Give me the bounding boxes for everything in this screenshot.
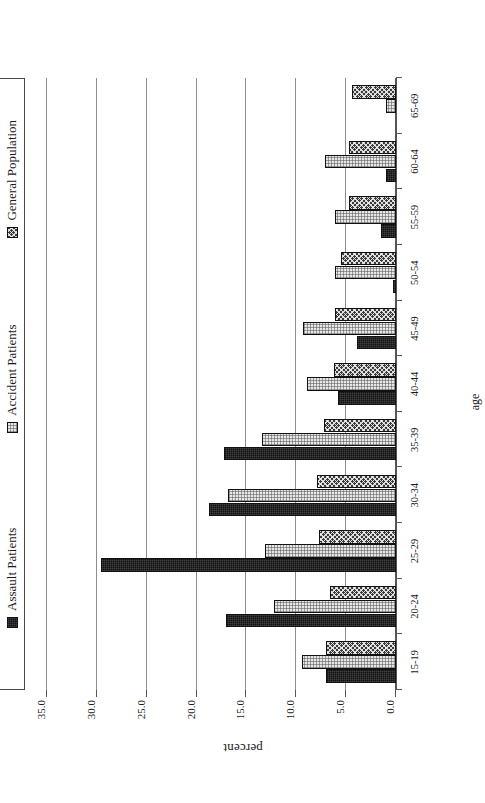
bar-general-population-45-49 (335, 307, 396, 321)
y-axis-label: 0.0 (384, 700, 396, 714)
bar-assault-patients-50-54 (393, 279, 396, 293)
x-axis-tick (396, 689, 402, 690)
y-gridline (145, 78, 146, 690)
x-axis-tick (396, 132, 402, 133)
bar-general-population-30-34 (317, 474, 396, 488)
x-axis-label-25-29: 25-29 (409, 538, 420, 563)
y-axis-tick (345, 690, 346, 697)
bar-group-55-59 (335, 196, 396, 238)
x-axis-label-50-54: 50-54 (409, 260, 420, 285)
bar-accident-patients-20-24 (274, 599, 396, 613)
y-gridline (95, 78, 96, 690)
bar-general-population-55-59 (349, 196, 396, 210)
bar-accident-patients-30-34 (228, 488, 396, 502)
x-axis-label-65-69: 65-69 (409, 93, 420, 118)
y-gridline (195, 78, 196, 690)
y-axis-label: 5.0 (334, 700, 346, 714)
x-axis-tick (396, 410, 402, 411)
x-axis-label-30-34: 30-34 (409, 483, 420, 508)
bar-group-65-69 (352, 85, 396, 127)
bar-assault-patients-60-64 (386, 168, 396, 182)
bar-accident-patients-25-29 (265, 544, 396, 558)
x-axis-label-20-24: 20-24 (409, 594, 420, 619)
legend-swatch-icon (6, 226, 17, 237)
x-axis-title: age (468, 52, 483, 752)
y-axis-title: percent (223, 740, 263, 756)
legend-item-assault-patients: Assault Patients (4, 527, 20, 627)
bar-accident-patients-40-44 (307, 377, 396, 391)
bar-group-50-54 (335, 251, 396, 293)
legend-swatch-icon (6, 617, 17, 628)
x-axis-label-60-64: 60-64 (409, 149, 420, 174)
x-axis-label-45-49: 45-49 (409, 316, 420, 341)
bar-assault-patients-45-49 (357, 335, 396, 349)
bar-general-population-50-54 (341, 251, 396, 265)
bar-general-population-20-24 (330, 585, 396, 599)
y-axis-tick (95, 690, 96, 697)
x-axis-label-15-19: 15-19 (409, 649, 420, 674)
y-axis-label: 25.0 (134, 700, 146, 719)
y-axis-label: 10.0 (284, 700, 296, 719)
y-axis-tick (46, 690, 47, 697)
bar-accident-patients-55-59 (335, 210, 396, 224)
x-axis-tick (396, 243, 402, 244)
y-gridline (46, 78, 47, 690)
y-axis-tick (145, 690, 146, 697)
x-axis-tick (396, 633, 402, 634)
bar-assault-patients-40-44 (338, 391, 396, 405)
bar-assault-patients-20-24 (225, 613, 396, 627)
x-axis-tick (396, 188, 402, 189)
y-axis-tick (245, 690, 246, 697)
y-axis-tick (295, 690, 296, 697)
bar-group-30-34 (208, 474, 395, 516)
bar-group-40-44 (307, 363, 396, 405)
y-axis-label: 15.0 (234, 700, 246, 719)
legend-label: General Population (4, 119, 20, 220)
bar-assault-patients-25-29 (100, 558, 395, 572)
x-axis-label-40-44: 40-44 (409, 371, 420, 396)
bar-accident-patients-65-69 (386, 99, 396, 113)
plot-wrapper: percent Assault PatientsAccident Patient… (33, 52, 453, 752)
bar-general-population-15-19 (326, 641, 396, 655)
bar-group-25-29 (100, 530, 395, 572)
bar-accident-patients-15-19 (302, 655, 396, 669)
x-axis-tick (396, 77, 402, 78)
y-axis-label: 20.0 (184, 700, 196, 719)
bar-general-population-35-39 (324, 418, 396, 432)
y-axis-label: 30.0 (84, 700, 96, 719)
bar-general-population-25-29 (319, 530, 396, 544)
chart-legend: Assault PatientsAccident PatientsGeneral… (0, 78, 25, 690)
legend-label: Assault Patients (4, 527, 20, 610)
bar-group-45-49 (303, 307, 396, 349)
bar-group-15-19 (302, 641, 396, 683)
y-axis-label: 35.0 (35, 700, 47, 719)
bar-general-population-60-64 (349, 140, 396, 154)
bar-accident-patients-45-49 (303, 321, 396, 335)
bar-assault-patients-15-19 (326, 669, 396, 683)
plot-area: 0.05.010.015.020.025.030.035.015-1920-24… (47, 78, 397, 690)
bar-group-60-64 (325, 140, 396, 182)
bar-accident-patients-50-54 (335, 265, 396, 279)
bar-assault-patients-35-39 (223, 446, 396, 460)
bar-accident-patients-35-39 (262, 432, 396, 446)
legend-swatch-icon (6, 421, 17, 432)
x-axis-tick (396, 577, 402, 578)
bar-assault-patients-55-59 (381, 224, 396, 238)
x-axis-tick (396, 522, 402, 523)
x-axis-label-35-39: 35-39 (409, 427, 420, 452)
x-axis-label-55-59: 55-59 (409, 204, 420, 229)
bar-general-population-65-69 (352, 85, 396, 99)
chart-page: percent Assault PatientsAccident Patient… (0, 0, 485, 803)
x-axis-tick (396, 466, 402, 467)
bar-assault-patients-30-34 (208, 502, 395, 516)
legend-item-accident-patients: Accident Patients (4, 324, 20, 432)
legend-item-general-population: General Population (4, 119, 20, 237)
bar-general-population-40-44 (334, 363, 396, 377)
bar-group-35-39 (223, 418, 396, 460)
y-axis-tick (395, 690, 396, 697)
legend-label: Accident Patients (4, 324, 20, 415)
y-axis-tick (195, 690, 196, 697)
x-axis-tick (396, 355, 402, 356)
rotated-figure: percent Assault PatientsAccident Patient… (33, 52, 453, 752)
bar-group-20-24 (225, 585, 396, 627)
